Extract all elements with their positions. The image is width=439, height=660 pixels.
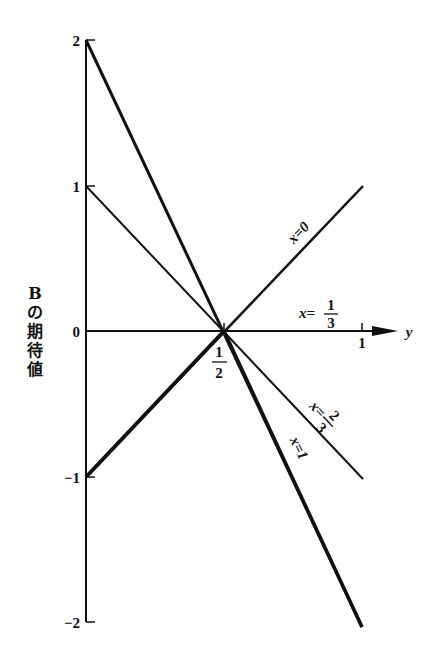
half-denominator: 2 — [215, 365, 223, 381]
label-x1-text: x=1 — [286, 433, 311, 462]
x-axis-name: y — [404, 324, 413, 340]
label-x13-num: 1 — [327, 297, 335, 313]
label-x23-prefix: x= — [306, 397, 329, 420]
half-label: 1 2 — [212, 344, 227, 381]
expected-value-diagram: 2 1 0 −1 −2 1 y 1 2 x=0 x= 1 3 x= 2 3 x=… — [0, 0, 439, 660]
half-numerator: 1 — [215, 344, 223, 360]
label-x13: x= 1 3 — [298, 297, 338, 331]
y-tick-label-minus2: −2 — [64, 615, 80, 631]
line-x0-bold-segment — [86, 331, 224, 477]
y-tick-label-1: 1 — [73, 179, 81, 195]
label-x13-prefix: x= — [298, 305, 315, 321]
label-x13-den: 3 — [327, 315, 335, 331]
line-x1-bold-segment — [224, 331, 362, 627]
y-tick-label-2: 2 — [73, 33, 81, 49]
label-x23-den: 3 — [313, 420, 330, 436]
label-x23: x= 2 3 — [298, 392, 345, 439]
label-x1: x=1 — [286, 433, 311, 462]
x-axis-arrow-icon — [372, 326, 398, 336]
x-tick-label-1: 1 — [358, 335, 366, 351]
y-tick-label-0: 0 — [73, 324, 81, 340]
y-tick-label-minus1: −1 — [64, 470, 80, 486]
